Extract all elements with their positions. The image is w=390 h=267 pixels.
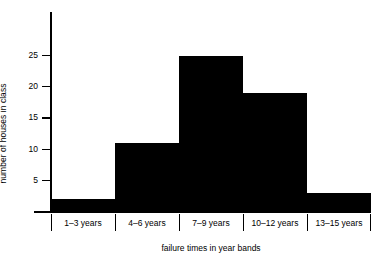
y-axis-tick-label: 5 [22,176,38,185]
y-axis-tick [42,149,51,150]
category-label-band: 1–3 years4–6 years7–9 years10–12 years13… [51,213,371,233]
category-label: 4–6 years [128,218,165,228]
bar [307,193,371,212]
category-label-cell: 10–12 years [243,213,307,233]
category-label: 7–9 years [192,218,229,228]
y-axis-tick [42,180,51,181]
plot-area [51,12,371,212]
y-axis-tick-label: 20 [22,82,38,91]
category-separator [179,214,180,231]
x-axis-title: failure times in year bands [51,243,371,253]
bar [179,56,243,212]
category-label-cell: 7–9 years [179,213,243,233]
category-separator [115,214,116,231]
histogram-chart: number of houses in class 510152025 1–3 … [0,0,390,267]
category-label-cell: 4–6 years [115,213,179,233]
y-axis-title: number of houses in class [0,0,24,267]
category-label-cell: 13–15 years [307,213,371,233]
category-label-cell: 1–3 years [51,213,115,233]
y-axis-tick [42,55,51,56]
category-label: 1–3 years [64,218,101,228]
category-label: 10–12 years [252,218,299,228]
category-separator [307,214,308,231]
bar [51,199,115,211]
category-label: 13–15 years [316,218,363,228]
y-axis-tick [42,86,51,87]
category-separator [243,214,244,231]
y-axis-tick [42,117,51,118]
y-axis-tick-label: 10 [22,145,38,154]
y-axis-tick-label: 15 [22,113,38,122]
bar [115,143,179,212]
category-band-right-edge [370,214,371,231]
bar [243,93,307,211]
y-axis-tick-label: 25 [22,51,38,60]
